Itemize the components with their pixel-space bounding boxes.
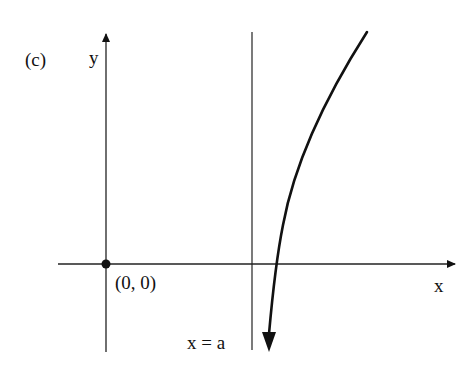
- figure-canvas: (c) y (0, 0) x x = a: [0, 0, 475, 369]
- origin-point: [102, 260, 111, 269]
- asymptote-label: x = a: [187, 333, 225, 352]
- curve: [269, 32, 367, 334]
- curve-arrowhead-icon: [262, 332, 276, 352]
- y-axis-label: y: [89, 48, 99, 67]
- origin-label: (0, 0): [115, 273, 156, 292]
- graph: [0, 0, 475, 369]
- panel-label: (c): [25, 50, 46, 69]
- x-axis-label: x: [434, 276, 444, 295]
